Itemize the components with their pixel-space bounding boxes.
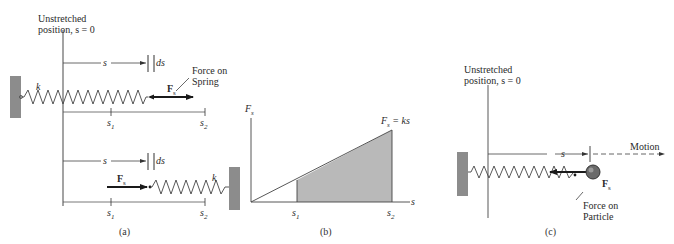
- unstretched-label-a-line1: Unstretched: [38, 13, 86, 24]
- caption-c: (c): [545, 226, 556, 237]
- force-fs-label-c: Fs: [602, 178, 611, 194]
- s2-label-graph: s2: [387, 207, 394, 223]
- force-fs-label-top: Fs: [167, 83, 176, 99]
- s1-label-graph: s1: [292, 207, 299, 223]
- s1-label-top: s1: [107, 117, 114, 133]
- motion-label: Motion: [630, 141, 659, 152]
- ds-label-top: ds: [156, 57, 165, 68]
- force-note-spring-line2: Spring: [192, 76, 219, 87]
- caption-b: (b): [320, 226, 332, 237]
- displacement-s-c: s: [561, 148, 565, 159]
- force-note-spring-line1: Force on: [192, 65, 227, 76]
- spring-work-diagram: [0, 0, 674, 244]
- ds-label-bottom: ds: [156, 155, 165, 166]
- y-axis-label: Fs: [245, 103, 254, 119]
- caption-a: (a): [119, 226, 130, 237]
- wall-c: [457, 152, 468, 196]
- force-note-particle-line1: Force on: [583, 200, 618, 211]
- s2-label-bottom: s2: [200, 207, 207, 223]
- unstretched-label-c-line2: position, s = 0: [464, 75, 521, 86]
- unstretched-label-c-line1: Unstretched: [464, 64, 512, 75]
- displacement-s-top: s: [103, 57, 107, 68]
- particle-ball: [586, 165, 600, 179]
- unstretched-label-a-line2: position, s = 0: [38, 24, 95, 35]
- s1-label-bottom: s1: [107, 207, 114, 223]
- displacement-s-bottom: s: [103, 155, 107, 166]
- wall-right: [229, 167, 240, 210]
- s2-label-top: s2: [200, 117, 207, 133]
- spring-constant-k-bottom: k: [212, 172, 216, 183]
- force-fs-label-bottom: Fs: [117, 173, 126, 189]
- x-axis-label: s: [411, 196, 415, 207]
- spring-top: [21, 90, 148, 104]
- spring-constant-k-top: k: [36, 81, 40, 92]
- equation-label: Fs = ks: [381, 115, 410, 131]
- spring-bottom: [150, 180, 229, 194]
- force-note-particle-line2: Particle: [583, 211, 614, 222]
- force-note-leader: [176, 78, 189, 91]
- work-area-shaded: [297, 130, 392, 202]
